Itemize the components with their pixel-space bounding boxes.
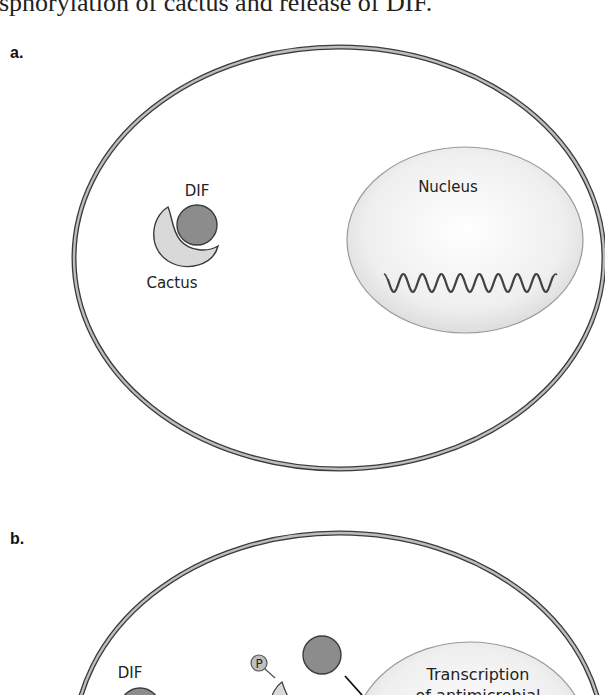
dif-protein — [177, 205, 217, 245]
panel-a: Nucleus DIF Cactus — [74, 47, 604, 469]
translocation-arrow — [345, 676, 362, 695]
nucleus-label: Nucleus — [418, 178, 478, 196]
phosphate-bond — [264, 668, 275, 678]
panel-b: Transcription of antimicrobial P DIF — [74, 533, 604, 695]
nucleus-label-line-2: of antimicrobial — [416, 686, 541, 695]
dif-protein — [120, 688, 160, 695]
cactus-label: Cactus — [146, 274, 197, 292]
diagram-canvas: Nucleus DIF Cactus Transcription of anti… — [0, 0, 605, 695]
released-dif-protein — [303, 636, 341, 674]
phosphorylated-cactus — [271, 682, 290, 695]
nucleus — [347, 147, 583, 333]
dif-label: DIF — [185, 182, 210, 200]
dif-label: DIF — [118, 664, 143, 682]
phosphate-label: P — [255, 657, 262, 671]
nucleus-label-line-1: Transcription — [426, 665, 530, 684]
